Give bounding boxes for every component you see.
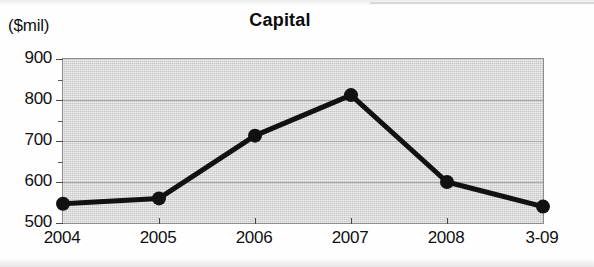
data-point-marker xyxy=(536,200,550,214)
y-axis-tick-major xyxy=(56,141,63,142)
x-axis-label: 3-09 xyxy=(497,228,587,248)
x-axis-label: 2007 xyxy=(305,228,395,248)
scan-edge-bottom xyxy=(0,258,594,267)
y-axis-tick-major xyxy=(56,100,63,101)
data-point-marker xyxy=(152,191,166,205)
y-axis-tick-major xyxy=(56,223,63,224)
chart-title: Capital xyxy=(0,10,594,31)
x-axis-label: 2004 xyxy=(17,228,107,248)
y-axis-label: 700 xyxy=(0,130,52,150)
y-axis-tick-major xyxy=(56,59,63,60)
x-axis-label: 2006 xyxy=(209,228,299,248)
data-series-line xyxy=(63,59,543,223)
plot-area xyxy=(62,58,544,224)
x-axis-label: 2008 xyxy=(401,228,491,248)
chart-page: ($mil) Capital 900800700600500 200420052… xyxy=(0,0,594,267)
data-point-marker xyxy=(344,88,358,102)
y-axis-label: 900 xyxy=(0,48,52,68)
data-point-marker xyxy=(56,197,70,211)
series-line xyxy=(63,95,543,207)
y-axis-label: 600 xyxy=(0,171,52,191)
x-axis-label: 2005 xyxy=(113,228,203,248)
scan-edge-top-line xyxy=(370,2,594,4)
chart-title-text: Capital xyxy=(249,10,310,30)
y-axis-label: 800 xyxy=(0,89,52,109)
data-point-marker xyxy=(440,175,454,189)
y-axis-tick-major xyxy=(56,182,63,183)
data-point-marker xyxy=(248,129,262,143)
